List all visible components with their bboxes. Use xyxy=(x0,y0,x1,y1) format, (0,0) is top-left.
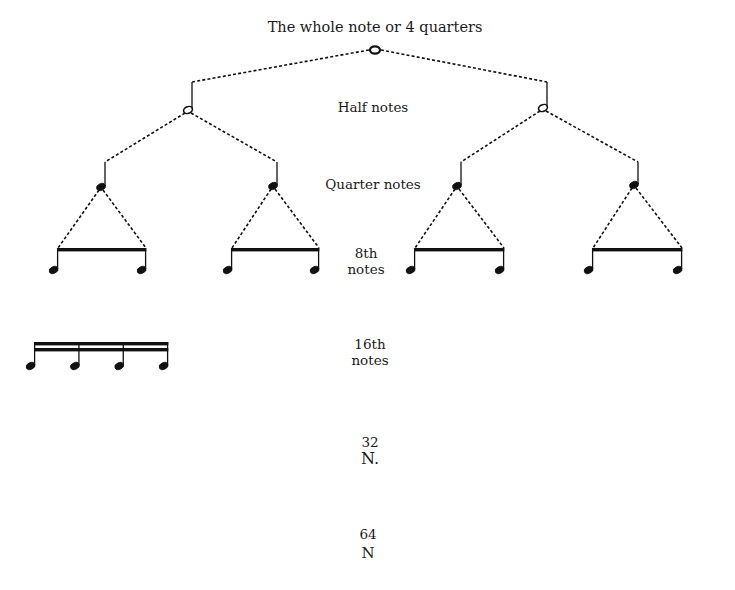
label-eighth-line1: 8th xyxy=(346,246,386,260)
dotted-connector xyxy=(105,113,185,162)
label-sixteenth-line1: 16th xyxy=(348,337,392,351)
diagram-title: The whole note or 4 quarters xyxy=(250,20,500,35)
eighth-note-beam xyxy=(57,248,146,251)
label-quarter-notes: Quarter notes xyxy=(298,177,448,191)
label-32nd-line1: 32 xyxy=(358,435,382,449)
dotted-connector xyxy=(58,190,99,248)
label-eighth-line2: notes xyxy=(341,262,391,276)
dotted-connector xyxy=(459,189,504,248)
dotted-connector xyxy=(192,50,369,82)
dotted-connector xyxy=(103,190,146,248)
dotted-connector xyxy=(546,111,638,162)
dotted-connector xyxy=(275,189,319,248)
dotted-connector xyxy=(593,188,632,248)
note-value-tree-diagram: The whole note or 4 quarters Half notes … xyxy=(0,0,735,590)
dotted-connector xyxy=(232,189,271,248)
label-64th-line2: N xyxy=(356,546,380,562)
eighth-note-beam xyxy=(414,248,504,251)
eighth-note-beam xyxy=(231,248,319,251)
dotted-connector xyxy=(191,113,277,162)
sixteenth-note-beam xyxy=(34,342,168,345)
whole-note-icon xyxy=(370,46,380,53)
sixteenth-note-beam xyxy=(34,348,168,351)
label-32nd-line2: N. xyxy=(357,451,383,468)
eighth-note-beam xyxy=(592,248,682,251)
label-sixteenth-line2: notes xyxy=(345,353,395,367)
label-half-notes: Half notes xyxy=(308,100,438,114)
dotted-connector xyxy=(461,111,540,162)
dotted-connector xyxy=(636,188,682,248)
label-64th-line1: 64 xyxy=(356,527,380,541)
dotted-connector xyxy=(415,189,455,248)
dotted-connector xyxy=(381,50,547,82)
note-tree-graphic xyxy=(0,0,735,590)
